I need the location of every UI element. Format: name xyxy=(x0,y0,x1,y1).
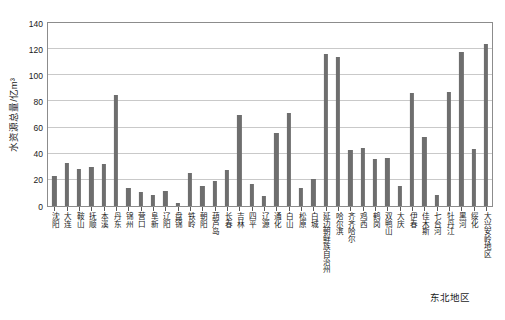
x-axis-label-slot: 四平 xyxy=(245,212,258,292)
bar-slot xyxy=(184,23,197,206)
x-axis-label-slot: 葫芦岛 xyxy=(208,212,221,292)
bar-slot xyxy=(233,23,246,206)
bar-slot xyxy=(196,23,209,206)
x-axis-tick xyxy=(165,207,166,211)
x-axis-label-slot: 白山 xyxy=(282,212,295,292)
bar-slot xyxy=(171,23,184,206)
bar xyxy=(410,93,414,206)
x-axis-label: 白城 xyxy=(309,212,318,227)
x-axis-label: 七台河 xyxy=(432,212,441,235)
bar xyxy=(385,158,389,206)
x-axis-label-slot: 七台河 xyxy=(430,212,443,292)
y-axis-tick-label: 20 xyxy=(21,176,43,185)
x-axis-tick xyxy=(227,207,228,211)
x-axis-tick xyxy=(116,207,117,211)
x-axis-label-slot: 齐齐哈尔 xyxy=(344,212,357,292)
x-axis-tick xyxy=(79,207,80,211)
x-axis-tick xyxy=(474,207,475,211)
x-axis-tick xyxy=(128,207,129,211)
x-axis-tick xyxy=(363,207,364,211)
x-axis-tick xyxy=(449,207,450,211)
bar-slot xyxy=(208,23,221,206)
bar xyxy=(299,188,303,206)
bar-slot xyxy=(455,23,468,206)
x-axis-tick xyxy=(326,207,327,211)
bar xyxy=(225,170,229,206)
x-axis-tick xyxy=(486,207,487,211)
y-axis-tick-labels: 020406080100120140 xyxy=(19,22,43,207)
y-axis-tick-label: 80 xyxy=(21,98,43,107)
x-axis-tick xyxy=(178,207,179,211)
bar-slot xyxy=(97,23,110,206)
bar xyxy=(361,148,365,206)
bar-slot xyxy=(406,23,419,206)
bar-slot xyxy=(393,23,406,206)
x-axis-label: 哈尔滨 xyxy=(334,212,343,235)
x-axis-label: 齐齐哈尔 xyxy=(346,212,355,242)
x-axis-tick xyxy=(202,207,203,211)
x-axis-label: 沈阳 xyxy=(50,212,59,227)
x-axis-label: 大连 xyxy=(62,212,71,227)
bar xyxy=(336,57,340,206)
x-axis-label-slot: 大兴安岭地区 xyxy=(480,212,493,292)
bar xyxy=(126,188,130,206)
bar-slot xyxy=(381,23,394,206)
y-axis-tick-label: 60 xyxy=(21,124,43,133)
bar xyxy=(237,115,241,207)
x-axis-title: 东北地区 xyxy=(395,292,505,304)
x-axis-tick xyxy=(91,207,92,211)
x-axis-tick xyxy=(54,207,55,211)
bar-slot xyxy=(122,23,135,206)
x-axis-label-slot: 长春 xyxy=(221,212,234,292)
x-axis-label-slot: 辽阳 xyxy=(159,212,172,292)
x-axis-tick xyxy=(400,207,401,211)
x-axis-label: 阜新 xyxy=(149,212,158,227)
x-axis-tick xyxy=(301,207,302,211)
bar-slot xyxy=(258,23,271,206)
x-axis-label: 松原 xyxy=(297,212,306,227)
y-axis-tick-label: 120 xyxy=(21,46,43,55)
bar xyxy=(200,186,204,206)
bar-slot xyxy=(443,23,456,206)
x-axis-tick xyxy=(437,207,438,211)
x-axis-label: 长春 xyxy=(223,212,232,227)
x-axis-tick xyxy=(252,207,253,211)
x-axis-label: 抚顺 xyxy=(87,212,96,227)
bar-slot xyxy=(147,23,160,206)
x-axis-label: 大兴安岭地区 xyxy=(482,212,491,258)
bar-slot xyxy=(270,23,283,206)
x-axis-label-slot: 大庆 xyxy=(393,212,406,292)
bar xyxy=(139,192,143,206)
bar-slot xyxy=(369,23,382,206)
x-axis-label-slot: 通化 xyxy=(270,212,283,292)
x-axis-label-slot: 牡丹江 xyxy=(443,212,456,292)
x-axis-label: 伊春 xyxy=(408,212,417,227)
x-axis-label-slot: 丹东 xyxy=(110,212,123,292)
bar xyxy=(250,184,254,206)
x-axis-tick xyxy=(461,207,462,211)
x-axis-label-slot: 沈阳 xyxy=(48,212,61,292)
bar xyxy=(163,191,167,206)
x-axis-label: 盘锦 xyxy=(173,212,182,227)
x-axis-tick xyxy=(104,207,105,211)
x-axis-label: 辽阳 xyxy=(161,212,170,227)
x-axis-label-slot: 朝阳 xyxy=(196,212,209,292)
bar xyxy=(52,176,56,206)
bar-slot xyxy=(332,23,345,206)
bars-layer xyxy=(48,23,492,206)
x-axis-tick xyxy=(387,207,388,211)
y-axis-tick-label: 140 xyxy=(21,20,43,29)
x-axis-label: 延边朝鲜族自治州 xyxy=(321,212,330,273)
x-axis-label: 白山 xyxy=(284,212,293,227)
x-axis-tick xyxy=(190,207,191,211)
bar xyxy=(398,186,402,206)
x-axis-label: 黑河 xyxy=(457,212,466,227)
bar-slot xyxy=(85,23,98,206)
bar-slot xyxy=(319,23,332,206)
bar-slot xyxy=(356,23,369,206)
x-axis-label-slot: 延边朝鲜族自治州 xyxy=(319,212,332,292)
bar xyxy=(459,52,463,206)
bar xyxy=(348,150,352,206)
x-axis-label: 通化 xyxy=(272,212,281,227)
y-axis-tick-label: 100 xyxy=(21,72,43,81)
